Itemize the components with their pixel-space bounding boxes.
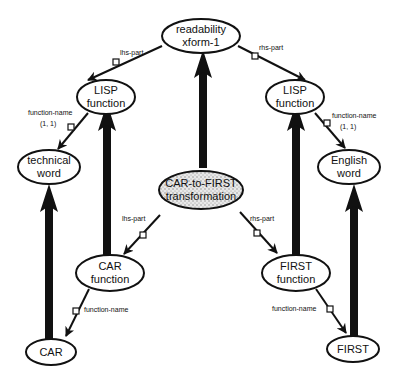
svg-text:word: word: [336, 167, 361, 179]
svg-text:word: word: [36, 167, 61, 179]
svg-text:function: function: [91, 273, 130, 285]
node-lisp-function-right: LISP function: [266, 80, 324, 114]
node-first-function: FIRST function: [262, 255, 330, 291]
thick-arrow-car-function-to-lisp-left: [98, 103, 116, 272]
svg-text:CAR-to-FIRST: CAR-to-FIRST: [165, 177, 237, 189]
label-top-lhs: lhs-part: [120, 49, 143, 57]
svg-text:transformation: transformation: [166, 190, 236, 202]
label-car-fn-name: function-name: [84, 306, 128, 313]
svg-text:FIRST: FIRST: [337, 343, 369, 355]
node-lisp-function-left: LISP function: [77, 80, 135, 114]
node-car-to-first-transformation: CAR-to-FIRST transformation: [159, 171, 243, 209]
thick-arrow-first-function-to-lisp-right: [287, 103, 305, 272]
label-left-fn-name: function-name: [28, 109, 72, 116]
svg-text:function: function: [87, 97, 126, 109]
node-english-word: English word: [318, 150, 380, 184]
thick-arrow-first-to-english-word: [345, 184, 363, 360]
edge-left-function-name: [58, 113, 88, 149]
label-mid-lhs: lhs-part: [122, 215, 145, 223]
label-left-fn-card: (1, 1): [40, 120, 56, 128]
svg-text:LISP: LISP: [283, 84, 307, 96]
svg-text:xform-1: xform-1: [182, 36, 219, 48]
label-right-fn-name: function-name: [332, 112, 376, 119]
node-readability-xform: readability xform-1: [162, 19, 240, 53]
svg-text:FIRST: FIRST: [280, 260, 312, 272]
edge-first-function-name: [316, 289, 346, 333]
semantic-network-diagram: lhs-part rhs-part function-name (1, 1) f…: [0, 0, 403, 385]
svg-text:function: function: [276, 97, 315, 109]
label-mid-rhs: rhs-part: [250, 215, 274, 223]
thick-arrow-transform-to-readability: [194, 50, 212, 168]
thick-arrow-car-to-technical-word: [40, 184, 58, 360]
label-top-rhs: rhs-part: [259, 44, 283, 52]
edge-top-rhs-part: [238, 46, 305, 80]
node-car-function: CAR function: [76, 255, 144, 291]
svg-text:LISP: LISP: [94, 84, 118, 96]
svg-text:English: English: [331, 154, 367, 166]
label-right-fn-card: (1, 1): [340, 123, 356, 131]
svg-text:CAR: CAR: [39, 346, 62, 358]
svg-text:function: function: [277, 273, 316, 285]
node-first: FIRST: [327, 336, 379, 362]
node-car: CAR: [26, 339, 76, 365]
svg-text:technical: technical: [27, 154, 70, 166]
svg-text:CAR: CAR: [98, 260, 121, 272]
label-first-fn-name: function-name: [272, 305, 316, 312]
node-technical-word: technical word: [18, 150, 80, 184]
svg-text:readability: readability: [176, 23, 227, 35]
